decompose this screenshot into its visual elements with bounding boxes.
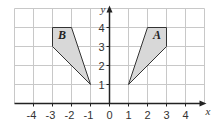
x-tick-label: -1 <box>84 109 94 121</box>
x-tick-label: 1 <box>125 109 131 121</box>
coordinate-grid-diagram: AB xy -4-3-2-1012341234 <box>0 0 214 127</box>
x-tick-label: -2 <box>65 109 75 121</box>
x-axis-label: x <box>205 105 211 117</box>
y-tick-label: 4 <box>98 22 104 34</box>
x-tick-label: -4 <box>27 109 37 121</box>
y-axis-label: y <box>100 3 106 15</box>
axes: xy <box>15 3 211 117</box>
shape-label-a: A <box>152 28 161 42</box>
y-tick-label: 3 <box>98 41 104 53</box>
shape-label-b: B <box>57 28 66 42</box>
x-tick-label: -3 <box>46 109 56 121</box>
x-tick-label: 3 <box>163 109 169 121</box>
x-tick-label: 0 <box>106 109 112 121</box>
x-tick-label: 4 <box>182 109 188 121</box>
y-tick-label: 1 <box>98 79 104 91</box>
y-tick-label: 2 <box>98 60 104 72</box>
x-tick-label: 2 <box>144 109 150 121</box>
